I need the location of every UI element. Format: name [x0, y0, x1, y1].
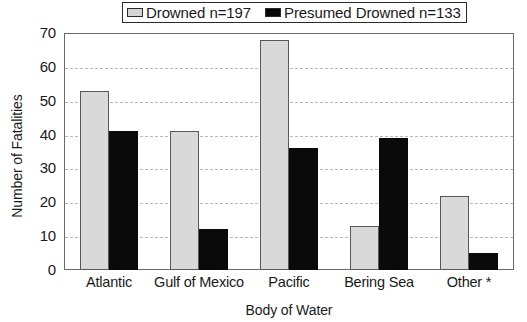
bar-group: [154, 33, 244, 270]
bar: [350, 226, 379, 270]
bar: [80, 91, 109, 270]
bar-group: [64, 33, 154, 270]
y-tick-label: 30: [0, 160, 56, 175]
y-tick-label: 40: [0, 127, 56, 142]
y-tick-label: 60: [0, 59, 56, 74]
x-axis-tick-labels: AtlanticGulf of MexicoPacificBering SeaO…: [64, 274, 514, 296]
y-tick-label: 20: [0, 194, 56, 209]
bar-chart: Drowned n=197 Presumed Drowned n=133 Num…: [0, 0, 527, 322]
legend-label-presumed-drowned: Presumed Drowned n=133: [284, 5, 461, 20]
y-tick-label: 0: [0, 262, 56, 277]
legend-label-drowned: Drowned n=197: [146, 5, 251, 20]
y-tick-label: 50: [0, 93, 56, 108]
bar-group: [424, 33, 514, 270]
y-tick-label: 10: [0, 228, 56, 243]
bar: [199, 229, 228, 270]
x-tick-label: Other *: [424, 274, 514, 290]
bar: [260, 40, 289, 270]
bar: [170, 131, 199, 270]
x-tick-label: Pacific: [244, 274, 334, 290]
x-axis-title: Body of Water: [64, 302, 514, 318]
bar-group: [334, 33, 424, 270]
bar: [469, 253, 498, 270]
x-tick-label: Bering Sea: [334, 274, 424, 290]
bar: [109, 131, 138, 270]
x-tick-label: Gulf of Mexico: [154, 274, 244, 290]
bar: [379, 138, 408, 270]
y-tick-label: 70: [0, 25, 56, 40]
legend-entry-drowned: Drowned n=197: [127, 5, 251, 20]
bars-layer: [64, 33, 514, 270]
legend-swatch-light-gray-icon: [127, 8, 143, 17]
legend-swatch-black-icon: [265, 8, 281, 17]
legend-entry-presumed-drowned: Presumed Drowned n=133: [265, 5, 461, 20]
bar-group: [244, 33, 334, 270]
x-tick-label: Atlantic: [64, 274, 154, 290]
chart-legend: Drowned n=197 Presumed Drowned n=133: [122, 2, 467, 23]
bar: [289, 148, 318, 270]
bar: [440, 196, 469, 270]
